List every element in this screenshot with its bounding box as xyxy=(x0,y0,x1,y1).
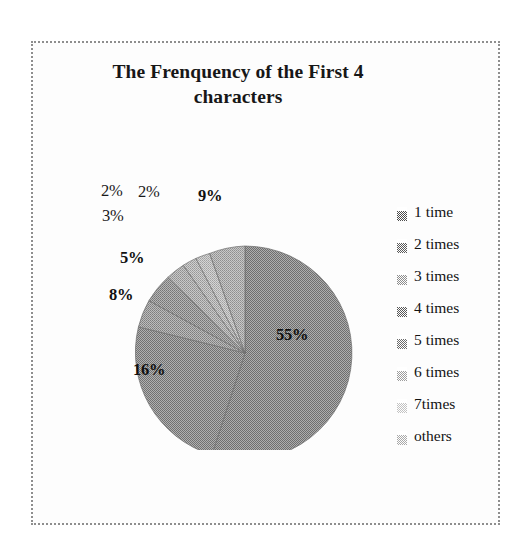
legend-label: 5 times xyxy=(414,331,459,349)
legend-label: 2 times xyxy=(414,235,459,253)
legend-label: 7times xyxy=(414,395,455,413)
legend-swatch-icon xyxy=(397,271,407,281)
legend-item-others[interactable]: others xyxy=(397,420,497,452)
legend-label: 4 times xyxy=(414,299,459,317)
chart-legend: 1 time 2 times 3 times 4 times 5 times xyxy=(397,196,497,452)
legend-swatch-icon xyxy=(397,367,407,377)
legend-label: others xyxy=(414,427,452,445)
legend-label: 6 times xyxy=(414,363,459,381)
legend-swatch-icon xyxy=(397,431,407,441)
legend-item-5-times[interactable]: 5 times xyxy=(397,324,497,356)
pie-label-5-times: 3% xyxy=(102,206,124,226)
legend-item-2-times[interactable]: 2 times xyxy=(397,228,497,260)
legend-item-1-time[interactable]: 1 time xyxy=(397,196,497,228)
chart-title: The Frenquency of the First 4 characters xyxy=(73,59,403,109)
pie-label-others: 9% xyxy=(198,186,222,206)
legend-swatch-icon xyxy=(397,303,407,313)
chart-frame: The Frenquency of the First 4 characters xyxy=(31,41,500,525)
legend-swatch-icon xyxy=(397,239,407,249)
legend-label: 1 time xyxy=(414,203,453,221)
legend-item-6-times[interactable]: 6 times xyxy=(397,356,497,388)
pie-label-6-times: 2% xyxy=(101,181,123,201)
pie-label-3-times: 8% xyxy=(109,285,133,305)
legend-label: 3 times xyxy=(414,267,459,285)
legend-item-7times[interactable]: 7times xyxy=(397,388,497,420)
pie-label-2-times: 16% xyxy=(133,360,165,380)
pie-label-1-time: 55% xyxy=(276,325,308,345)
pie-chart-svg xyxy=(76,160,376,450)
chart-title-line-1: The Frenquency of the First 4 xyxy=(73,59,403,84)
legend-item-4-times[interactable]: 4 times xyxy=(397,292,497,324)
chart-title-line-2: characters xyxy=(73,84,403,109)
pie-label-4-times: 5% xyxy=(120,248,144,268)
legend-swatch-icon xyxy=(397,399,407,409)
pie-label-7times: 2% xyxy=(138,182,160,202)
legend-swatch-icon xyxy=(397,335,407,345)
pie-chart: 55% 16% 8% 5% 3% 2% 2% 9% xyxy=(76,160,376,450)
legend-swatch-icon xyxy=(397,207,407,217)
legend-item-3-times[interactable]: 3 times xyxy=(397,260,497,292)
